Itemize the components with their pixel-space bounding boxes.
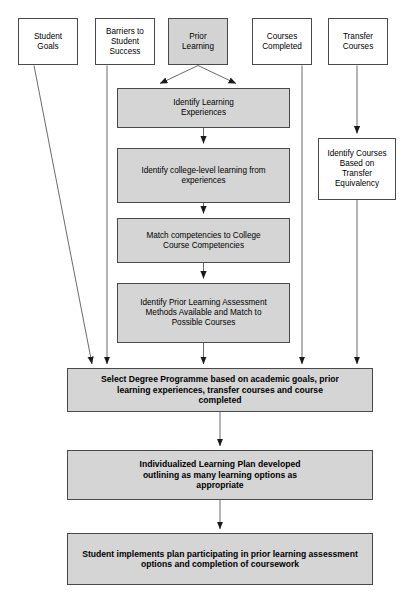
node-student-goals[interactable]: Student Goals bbox=[18, 18, 78, 65]
node-identify-pla-methods-label: Identify Prior Learning Assessment Metho… bbox=[137, 298, 270, 328]
node-match-competencies[interactable]: Match competencies to College Course Com… bbox=[117, 218, 290, 263]
edge-prior-learning-left-branch bbox=[160, 66, 198, 84]
node-individualized-learning-plan-label: Individualized Learning Plan developed o… bbox=[137, 459, 304, 490]
node-courses-completed-label: Courses Completed bbox=[259, 32, 305, 52]
flowchart-canvas: Student Goals Barriers to Student Succes… bbox=[0, 0, 410, 603]
node-match-competencies-label: Match competencies to College Course Com… bbox=[143, 231, 263, 251]
node-identify-learning-experiences[interactable]: Identify Learning Experiences bbox=[117, 88, 290, 128]
node-individualized-learning-plan[interactable]: Individualized Learning Plan developed o… bbox=[67, 450, 373, 500]
node-transfer-courses-label: Transfer Courses bbox=[340, 32, 377, 52]
node-barriers-to-student-success[interactable]: Barriers to Student Success bbox=[95, 18, 155, 65]
node-identify-learning-experiences-label: Identify Learning Experiences bbox=[170, 98, 237, 118]
node-identify-college-level-learning[interactable]: Identify college-level learning from exp… bbox=[117, 148, 290, 203]
node-transfer-courses[interactable]: Transfer Courses bbox=[328, 18, 388, 65]
node-courses-completed[interactable]: Courses Completed bbox=[252, 18, 312, 65]
node-student-goals-label: Student Goals bbox=[31, 32, 65, 52]
top-cropped-text-fragment bbox=[205, 0, 405, 7]
node-prior-learning[interactable]: Prior Learning bbox=[168, 18, 228, 65]
node-barriers-to-student-success-label: Barriers to Student Success bbox=[103, 27, 147, 57]
node-student-implements-plan[interactable]: Student implements plan participating in… bbox=[67, 533, 373, 585]
edge-student-goals-to-select-degree bbox=[34, 66, 92, 365]
node-identify-pla-methods[interactable]: Identify Prior Learning Assessment Metho… bbox=[117, 283, 290, 343]
edge-prior-learning-right-branch bbox=[198, 66, 236, 84]
node-prior-learning-label: Prior Learning bbox=[179, 32, 217, 52]
node-identify-courses-transfer-equivalency[interactable]: Identify Courses Based on Transfer Equiv… bbox=[318, 138, 396, 200]
node-identify-courses-transfer-equivalency-label: Identify Courses Based on Transfer Equiv… bbox=[324, 149, 389, 189]
node-student-implements-plan-label: Student implements plan participating in… bbox=[79, 549, 361, 570]
node-select-degree-programme-label: Select Degree Programme based on academi… bbox=[98, 374, 342, 405]
node-select-degree-programme[interactable]: Select Degree Programme based on academi… bbox=[67, 368, 373, 412]
node-identify-college-level-learning-label: Identify college-level learning from exp… bbox=[138, 166, 268, 186]
